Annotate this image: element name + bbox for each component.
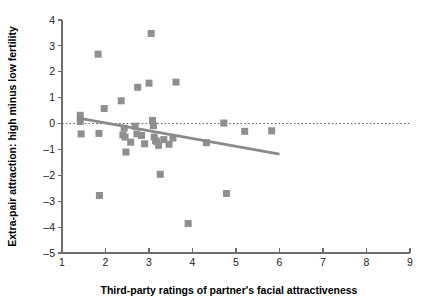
y-tick-label: –2 (43, 169, 55, 181)
data-point (122, 149, 129, 156)
data-point (95, 51, 102, 58)
y-tick-label: 1 (49, 91, 55, 103)
y-tick-label: –3 (43, 195, 55, 207)
y-tick-label: –1 (43, 143, 55, 155)
data-point (241, 128, 248, 135)
data-point (134, 84, 141, 91)
x-tick-label: 7 (320, 256, 326, 268)
data-point (185, 220, 192, 227)
data-point (127, 139, 134, 146)
x-tick-label: 5 (233, 256, 239, 268)
data-point (220, 120, 227, 127)
data-point (223, 190, 230, 197)
data-point (157, 171, 164, 178)
y-tick-label: –5 (43, 247, 55, 259)
x-tick-label: 3 (146, 256, 152, 268)
data-point (172, 79, 179, 86)
data-point (146, 80, 153, 87)
data-point (96, 192, 103, 199)
data-points-group (77, 30, 275, 227)
x-tick-label: 9 (407, 256, 413, 268)
y-tick-label: 3 (49, 40, 55, 52)
data-point (101, 105, 108, 112)
y-tick-label: 4 (49, 14, 55, 26)
x-tick-label: 8 (364, 256, 370, 268)
y-tick-label: 0 (49, 117, 55, 129)
x-tick-label: 6 (277, 256, 283, 268)
data-point (95, 130, 102, 137)
data-point (138, 132, 145, 139)
data-point (166, 141, 173, 148)
x-tick-label: 4 (190, 256, 196, 268)
data-point (268, 127, 275, 134)
data-point (78, 130, 85, 137)
data-point (141, 140, 148, 147)
y-axis-title: Extra-pair attraction: high minus low fe… (6, 26, 18, 247)
x-tick-label: 1 (59, 256, 65, 268)
x-tick-label: 2 (103, 256, 109, 268)
scatter-plot-figure: –5–4–3–2–101234123456789 Third-party rat… (0, 0, 421, 308)
data-point (118, 97, 125, 104)
x-axis-title: Third-party ratings of partner's facial … (101, 284, 358, 296)
y-tick-label: 2 (49, 65, 55, 77)
y-tick-label: –4 (43, 221, 55, 233)
data-point (150, 122, 157, 129)
plot-canvas: –5–4–3–2–101234123456789 Third-party rat… (0, 0, 421, 308)
data-point (148, 30, 155, 37)
